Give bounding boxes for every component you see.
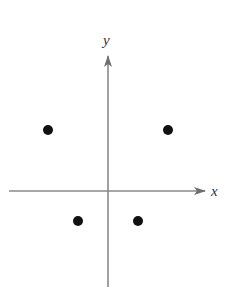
- point-p3: [73, 216, 83, 226]
- coordinate-plane: x y: [0, 0, 249, 299]
- point-p1: [43, 125, 53, 135]
- point-p2: [163, 125, 173, 135]
- point-p4: [133, 216, 143, 226]
- x-axis-label: x: [210, 183, 218, 199]
- y-axis-label: y: [101, 32, 110, 48]
